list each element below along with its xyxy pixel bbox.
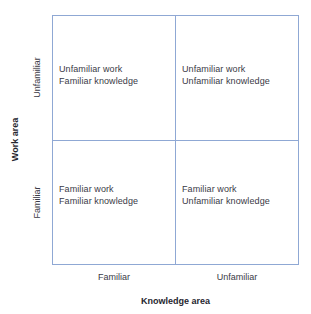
y-axis-title: Work area [10, 105, 21, 175]
quadrant-bottom-right: Familiar work Unfamiliar knowledge [182, 184, 270, 207]
quadrant-bottom-left-line2: Familiar knowledge [59, 196, 138, 208]
matrix-horizontal-divider [52, 140, 299, 141]
quadrant-bottom-right-line2: Unfamiliar knowledge [182, 196, 270, 208]
quadrant-top-left: Unfamiliar work Familiar knowledge [59, 64, 138, 87]
quadrant-top-left-line2: Familiar knowledge [59, 76, 138, 88]
x-axis-title: Knowledge area [52, 296, 299, 307]
quadrant-bottom-left: Familiar work Familiar knowledge [59, 184, 138, 207]
quadrant-top-left-line1: Unfamiliar work [59, 64, 138, 76]
matrix-figure: Unfamiliar work Familiar knowledge Unfam… [0, 0, 311, 314]
x-axis-tick-unfamiliar: Unfamiliar [201, 272, 273, 283]
quadrant-top-right-line1: Unfamiliar work [182, 64, 270, 76]
y-axis-tick-familiar: Familiar [32, 171, 43, 235]
x-axis-tick-familiar: Familiar [78, 272, 150, 283]
y-axis-tick-unfamiliar: Unfamiliar [32, 46, 43, 110]
quadrant-top-right: Unfamiliar work Unfamiliar knowledge [182, 64, 270, 87]
quadrant-bottom-left-line1: Familiar work [59, 184, 138, 196]
quadrant-top-right-line2: Unfamiliar knowledge [182, 76, 270, 88]
quadrant-bottom-right-line1: Familiar work [182, 184, 270, 196]
